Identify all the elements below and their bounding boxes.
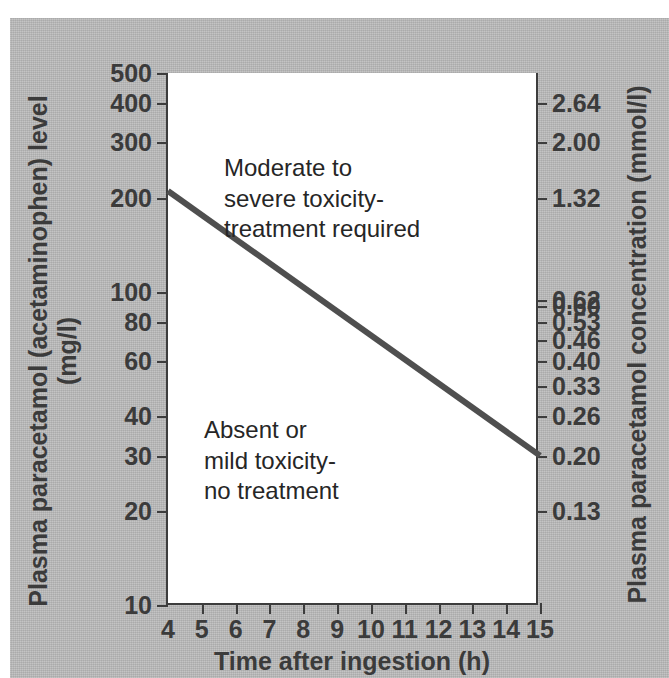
x-axis-tick-label: 11 (392, 615, 418, 644)
y-axis-right-tick (536, 361, 547, 363)
y-axis-left-tick (157, 456, 168, 458)
y-axis-left-tick-label: 100 (110, 277, 152, 306)
x-axis-tick (303, 603, 305, 614)
x-axis-tick-label: 6 (229, 615, 243, 644)
y-axis-left-tick (157, 416, 168, 418)
y-axis-left-tick-label: 200 (110, 183, 152, 212)
y-axis-left-tick (157, 103, 168, 105)
lower-region-annotation: Absent or mild toxicity- no treatment (204, 415, 339, 507)
y-axis-right-tick (536, 386, 547, 388)
x-axis-tick (371, 603, 373, 614)
y-axis-left-tick-label: 400 (110, 89, 152, 118)
x-axis-tick (337, 603, 339, 614)
y-axis-left-tick-label: 30 (124, 441, 152, 470)
y-axis-left-tick (157, 142, 168, 144)
y-axis-left-tick-label: 80 (124, 308, 152, 337)
y-axis-left-tick (157, 322, 168, 324)
y-axis-right-tick-label: 0.26 (552, 402, 601, 431)
y-axis-right-tick (536, 456, 547, 458)
x-axis-tick-label: 14 (492, 615, 520, 644)
x-axis-tick-label: 5 (195, 615, 209, 644)
y-axis-left-tick (157, 511, 168, 513)
y-axis-left-tick (157, 198, 168, 200)
y-axis-left-tick (157, 605, 168, 607)
y-axis-left-tick (157, 361, 168, 363)
y-axis-right-tick-label: 0.20 (552, 441, 601, 470)
y-axis-right-tick-label: 2.00 (552, 128, 601, 157)
x-axis-tick (202, 603, 204, 614)
x-axis-tick-label: 12 (425, 615, 453, 644)
y-axis-left-tick-label: 300 (110, 128, 152, 157)
y-axis-right-tick-label: 0.13 (552, 496, 601, 525)
x-axis-tick (439, 603, 441, 614)
plot-area: 500400300200100806040302010 2.642.001.32… (166, 73, 538, 605)
y-axis-right-tick (536, 142, 547, 144)
x-axis-tick (236, 603, 238, 614)
y-axis-left-tick (157, 292, 168, 294)
x-axis-tick (506, 603, 508, 614)
x-axis-title: Time after ingestion (h) (166, 647, 538, 676)
y-axis-left-tick-label: 60 (124, 347, 152, 376)
y-axis-left-tick-label: 40 (124, 402, 152, 431)
x-axis-tick-label: 4 (161, 615, 175, 644)
x-axis-tick-label: 15 (526, 615, 554, 644)
y-axis-left-tick-label: 20 (124, 496, 152, 525)
y-axis-left-tick-label: 10 (124, 591, 152, 620)
y-axis-left-tick-label: 500 (110, 59, 152, 88)
y-axis-right-tick (536, 322, 547, 324)
x-axis-tick-label: 9 (330, 615, 344, 644)
y-axis-right-tick (536, 306, 547, 308)
x-axis-tick (269, 603, 271, 614)
y-axis-right-tick (536, 300, 547, 302)
y-axis-right-tick (536, 103, 547, 105)
y-axis-right-tick (536, 198, 547, 200)
y-axis-right-title: Plasma paracetamol concentration (mmol/l… (623, 55, 652, 635)
x-axis-tick-label: 8 (296, 615, 310, 644)
x-axis-tick (472, 603, 474, 614)
y-axis-left-tick (157, 73, 168, 75)
x-axis-tick-label: 7 (263, 615, 277, 644)
y-axis-right-tick (536, 511, 547, 513)
x-axis-tick (405, 603, 407, 614)
x-axis-tick (540, 603, 542, 614)
upper-region-annotation: Moderate to severe toxicity- treatment r… (224, 153, 420, 245)
y-axis-right-tick (536, 416, 547, 418)
y-axis-right-tick-label: 2.64 (552, 89, 601, 118)
x-axis-tick-label: 13 (458, 615, 486, 644)
y-axis-right-tick-label: 0.33 (552, 372, 601, 401)
y-axis-right-tick (536, 340, 547, 342)
x-axis-tick-label: 10 (357, 615, 385, 644)
y-axis-right-tick-label: 1.32 (552, 183, 601, 212)
y-axis-left-title: Plasma paracetamol (acetaminophen) level… (24, 71, 82, 631)
figure-container: Plasma paracetamol (acetaminophen) level… (0, 0, 669, 678)
